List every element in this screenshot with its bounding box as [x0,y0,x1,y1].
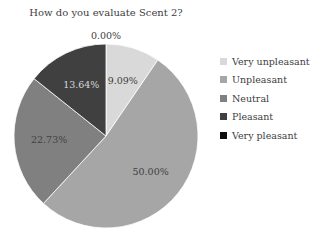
legend-swatch-icon [220,113,227,120]
pie-chart: 9.09%50.00%22.73%13.64%0.00% [0,0,214,241]
data-label-unpleasant: 50.00% [132,166,168,177]
legend-item-neutral: Neutral [220,89,310,108]
legend-item-very-pleasant: Very pleasant [220,126,310,145]
data-label-very-pleasant: 0.00% [91,30,121,41]
legend-label: Pleasant [232,111,273,122]
legend-item-unpleasant: Unpleasant [220,71,310,90]
legend-item-pleasant: Pleasant [220,108,310,127]
legend-swatch-icon [220,132,227,139]
legend-label: Neutral [232,93,269,104]
data-label-very-unpleasant: 9.09% [108,75,138,86]
legend-label: Unpleasant [232,74,287,85]
data-label-neutral: 22.73% [31,134,67,145]
legend-swatch-icon [220,76,227,83]
legend-swatch-icon [220,58,227,65]
legend: Very unpleasantUnpleasantNeutralPleasant… [220,52,310,145]
legend-label: Very unpleasant [232,56,310,67]
data-label-pleasant: 13.64% [63,79,99,90]
legend-label: Very pleasant [232,130,297,141]
legend-item-very-unpleasant: Very unpleasant [220,52,310,71]
legend-swatch-icon [220,95,227,102]
